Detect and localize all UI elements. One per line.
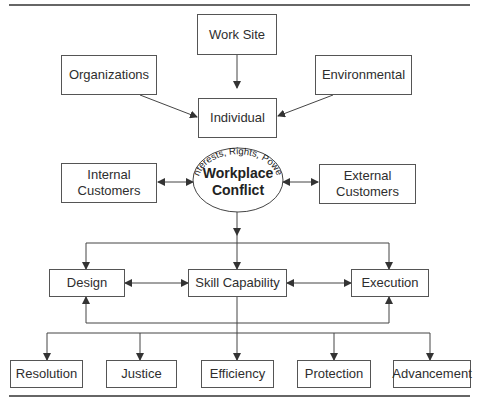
organizations-label: Organizations: [69, 67, 149, 83]
environmental-label: Environmental: [322, 67, 405, 83]
execution-label: Execution: [361, 275, 418, 291]
outcome-label: Efficiency: [210, 366, 265, 382]
outcome-label: Justice: [121, 366, 161, 382]
outcome-label: Advancement: [392, 366, 472, 382]
skill-capability-box: Skill Capability: [188, 269, 287, 297]
outcome-advancement-box: Advancement: [393, 360, 471, 388]
individual-box: Individual: [198, 98, 277, 138]
internal-customers-line1: Internal: [87, 167, 130, 183]
outcome-justice-box: Justice: [106, 360, 177, 388]
outcome-resolution-box: Resolution: [10, 360, 83, 388]
design-label: Design: [67, 275, 107, 291]
workplace-conflict-label: Workplace Conflict: [198, 165, 278, 199]
outcome-label: Resolution: [16, 366, 77, 382]
outcome-efficiency-box: Efficiency: [201, 360, 274, 388]
workplace-conflict-line1: Workplace: [198, 165, 278, 182]
internal-customers-box: Internal Customers: [61, 163, 157, 203]
environmental-box: Environmental: [315, 55, 412, 95]
external-customers-box: External Customers: [319, 164, 416, 204]
work-site-label: Work Site: [209, 27, 265, 43]
execution-box: Execution: [351, 269, 429, 297]
outcome-protection-box: Protection: [297, 360, 371, 388]
design-box: Design: [49, 269, 125, 297]
workplace-conflict-line2: Conflict: [198, 182, 278, 199]
external-customers-line1: External: [344, 168, 392, 184]
outcome-label: Protection: [305, 366, 364, 382]
work-site-box: Work Site: [197, 14, 277, 55]
skill-capability-label: Skill Capability: [195, 275, 280, 291]
individual-label: Individual: [210, 110, 265, 126]
internal-customers-line2: Customers: [78, 183, 141, 199]
organizations-box: Organizations: [61, 55, 157, 95]
workplace-conflict-diagram: Interests, Rights, Power Work Site Organ…: [0, 0, 480, 408]
external-customers-line2: Customers: [336, 184, 399, 200]
